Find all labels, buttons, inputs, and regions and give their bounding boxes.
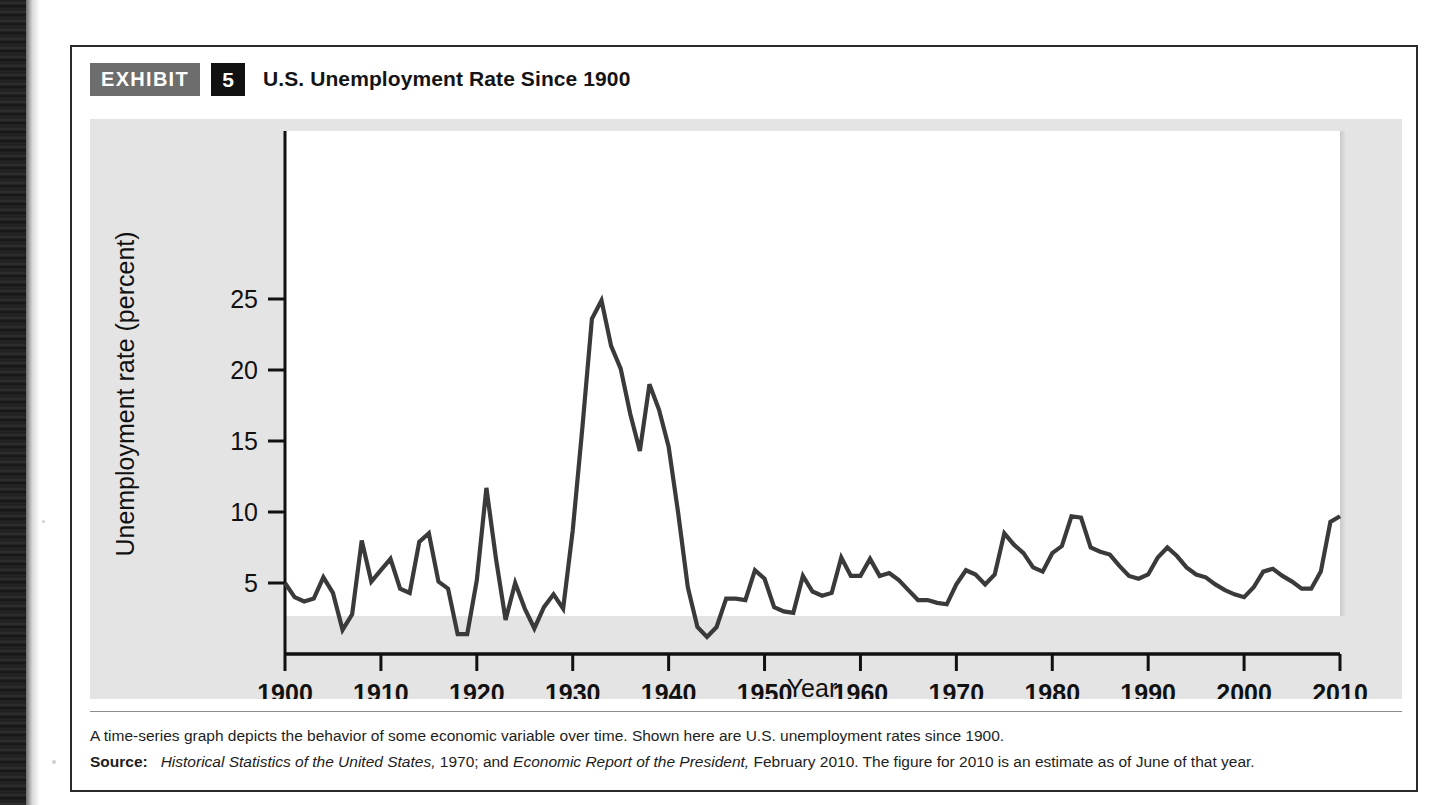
y-axis-tick-label: 15	[230, 427, 258, 455]
y-axis-title: Unemployment rate (percent)	[111, 231, 139, 556]
x-axis-title: Year	[787, 674, 838, 699]
exhibit-box: EXHIBIT 5 U.S. Unemployment Rate Since 1…	[70, 45, 1418, 792]
x-axis-tick-label: 1910	[353, 679, 409, 699]
exhibit-header: EXHIBIT 5 U.S. Unemployment Rate Since 1…	[90, 61, 630, 97]
x-axis-tick-label: 1980	[1024, 679, 1080, 699]
caption-source: Source: Historical Statistics of the Uni…	[90, 749, 1406, 775]
x-axis-tick-label: 1920	[449, 679, 505, 699]
y-axis-tick-label: 25	[230, 285, 258, 313]
x-axis-tick-label: 1960	[833, 679, 889, 699]
caption-divider	[90, 711, 1402, 712]
x-axis-tick-label: 1990	[1120, 679, 1176, 699]
unemployment-rate-series	[285, 300, 1340, 637]
source-title-2: Economic Report of the President,	[513, 753, 749, 770]
source-text-2: 1970; and	[440, 753, 513, 770]
x-axis-tick-label: 1940	[641, 679, 697, 699]
source-text-4: February 2010. The figure for 2010 is an…	[753, 753, 1254, 770]
source-label: Source:	[90, 753, 148, 770]
x-axis-ticks	[285, 654, 1340, 671]
scanned-page-edge	[0, 0, 26, 805]
source-space	[152, 753, 156, 770]
x-axis-tick-label: 1950	[737, 679, 793, 699]
y-axis-tick-label: 5	[244, 569, 258, 597]
unemployment-line-chart: 510152025 190019101920193019401950196019…	[90, 119, 1402, 699]
page-speck	[52, 760, 56, 764]
y-axis-tick-label: 20	[230, 356, 258, 384]
page-speck	[42, 520, 45, 523]
x-axis-tick-label: 1970	[929, 679, 985, 699]
x-axis-tick-label: 1900	[257, 679, 313, 699]
source-title-1: Historical Statistics of the United Stat…	[161, 753, 436, 770]
y-axis-ticks	[268, 299, 285, 583]
chart-panel: 510152025 190019101920193019401950196019…	[90, 119, 1402, 699]
caption-description: A time-series graph depicts the behavior…	[90, 723, 1406, 749]
caption-block: A time-series graph depicts the behavior…	[90, 723, 1406, 775]
page-edge-gradient	[26, 0, 40, 805]
x-axis-tick-label: 1930	[545, 679, 601, 699]
exhibit-title: U.S. Unemployment Rate Since 1900	[263, 67, 630, 91]
y-axis-tick-labels: 510152025	[230, 285, 258, 597]
exhibit-tag-label: EXHIBIT	[90, 63, 200, 96]
x-axis-tick-label: 2010	[1312, 679, 1368, 699]
exhibit-number-badge: 5	[211, 63, 245, 96]
y-axis-tick-label: 10	[230, 498, 258, 526]
x-axis-tick-label: 2000	[1216, 679, 1272, 699]
